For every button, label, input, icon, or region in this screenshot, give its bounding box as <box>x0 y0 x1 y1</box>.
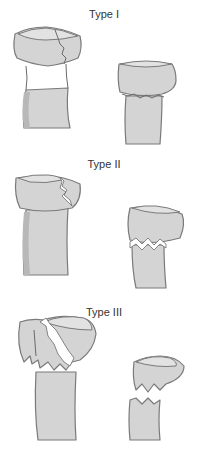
type-3-bone-right <box>129 356 184 440</box>
type-1-bone-right <box>118 61 176 144</box>
type-3-bone-left <box>19 316 96 440</box>
fracture-diagram <box>0 0 198 455</box>
type-1-bone-left <box>14 27 81 128</box>
type-2-bone-left <box>16 175 81 275</box>
type-2-bone-right <box>128 206 184 288</box>
